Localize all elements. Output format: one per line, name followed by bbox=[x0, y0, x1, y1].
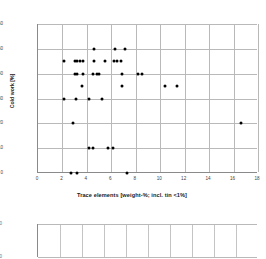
secondary-vertical-gridline bbox=[214, 224, 215, 257]
data-point bbox=[176, 85, 179, 88]
data-point bbox=[123, 47, 126, 50]
x-tick-label: 6 bbox=[101, 176, 119, 181]
data-point bbox=[93, 47, 96, 50]
data-point bbox=[82, 72, 85, 75]
data-point bbox=[93, 60, 96, 63]
x-tick-label: 8 bbox=[126, 176, 144, 181]
y-tick-label: 20 bbox=[0, 121, 3, 126]
y-tick-label: 0 bbox=[0, 170, 3, 175]
data-point bbox=[92, 147, 95, 150]
secondary-vertical-gridline bbox=[192, 224, 193, 257]
secondary-vertical-gridline bbox=[236, 224, 237, 257]
data-point bbox=[72, 122, 75, 125]
data-point bbox=[98, 72, 101, 75]
data-point bbox=[106, 147, 109, 150]
data-point bbox=[62, 97, 65, 100]
secondary-plot-area bbox=[37, 224, 257, 257]
data-point bbox=[112, 60, 115, 63]
horizontal-gridline bbox=[38, 74, 257, 75]
secondary-horizontal-gridline bbox=[38, 257, 257, 258]
secondary-partial-chart: 6050 bbox=[0, 214, 264, 257]
secondary-vertical-gridline bbox=[170, 224, 171, 257]
y-tick-label: 10 bbox=[0, 146, 3, 151]
data-point bbox=[100, 97, 103, 100]
data-point bbox=[121, 85, 124, 88]
data-point bbox=[140, 72, 143, 75]
y-axis-title: Cold work [%] bbox=[9, 61, 15, 121]
secondary-y-tick-label: 60 bbox=[0, 221, 2, 226]
horizontal-gridline bbox=[38, 24, 257, 25]
main-scatter-chart: Cold work [%] 0102030405060 024681012141… bbox=[0, 0, 264, 210]
secondary-vertical-gridline bbox=[104, 224, 105, 257]
data-point bbox=[82, 60, 85, 63]
data-point bbox=[88, 97, 91, 100]
secondary-y-tick-label: 50 bbox=[0, 254, 2, 259]
x-tick-label: 16 bbox=[224, 176, 242, 181]
data-point bbox=[62, 60, 65, 63]
x-tick-label: 14 bbox=[199, 176, 217, 181]
x-tick-label: 12 bbox=[175, 176, 193, 181]
x-tick-label: 2 bbox=[52, 176, 70, 181]
horizontal-gridline bbox=[38, 49, 257, 50]
data-point bbox=[70, 172, 73, 175]
data-point bbox=[76, 172, 79, 175]
data-point bbox=[78, 60, 81, 63]
y-tick-label: 30 bbox=[0, 96, 3, 101]
data-point bbox=[104, 60, 107, 63]
horizontal-gridline bbox=[38, 99, 257, 100]
data-point bbox=[120, 60, 123, 63]
y-tick-label: 60 bbox=[0, 21, 3, 26]
data-point bbox=[74, 97, 77, 100]
plot-area bbox=[37, 24, 257, 173]
horizontal-gridline bbox=[38, 123, 257, 124]
secondary-vertical-gridline bbox=[148, 224, 149, 257]
data-point bbox=[88, 147, 91, 150]
data-point bbox=[76, 72, 79, 75]
vertical-gridline bbox=[258, 24, 259, 172]
data-point bbox=[164, 85, 167, 88]
y-tick-label: 40 bbox=[0, 71, 3, 76]
secondary-vertical-gridline bbox=[126, 224, 127, 257]
data-point bbox=[111, 147, 114, 150]
data-point bbox=[81, 85, 84, 88]
x-tick-label: 4 bbox=[77, 176, 95, 181]
data-point bbox=[114, 47, 117, 50]
x-axis-title: Trace elements [weight-%; incl. tin <1%] bbox=[0, 192, 264, 198]
data-point bbox=[137, 72, 140, 75]
x-tick-label: 10 bbox=[150, 176, 168, 181]
y-tick-label: 50 bbox=[0, 46, 3, 51]
horizontal-gridline bbox=[38, 148, 257, 149]
data-point bbox=[239, 122, 242, 125]
secondary-vertical-gridline bbox=[82, 224, 83, 257]
data-point bbox=[121, 72, 124, 75]
data-point bbox=[92, 72, 95, 75]
x-tick-label: 0 bbox=[28, 176, 46, 181]
data-point bbox=[126, 172, 129, 175]
secondary-horizontal-gridline bbox=[38, 224, 257, 225]
secondary-vertical-gridline bbox=[60, 224, 61, 257]
x-tick-label: 18 bbox=[248, 176, 266, 181]
data-point bbox=[116, 60, 119, 63]
